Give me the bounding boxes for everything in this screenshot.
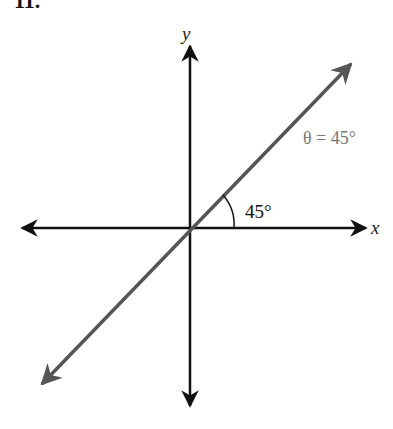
- y-axis-label: y: [180, 23, 191, 44]
- terminal-side-line: [42, 64, 351, 384]
- angle-label: 45°: [245, 201, 272, 222]
- angle-arc: [223, 195, 234, 228]
- angle-diagram: y x 45° θ = 45°: [0, 0, 393, 429]
- x-axis-label: x: [370, 217, 380, 238]
- theta-label: θ = 45°: [303, 128, 356, 148]
